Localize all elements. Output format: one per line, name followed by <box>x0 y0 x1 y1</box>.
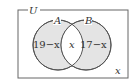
set-b-only-label: 17−x <box>80 39 107 50</box>
outside-label: x <box>115 65 121 76</box>
set-b-label: B <box>84 15 92 26</box>
intersection-label: x <box>69 39 75 50</box>
universe-label: U <box>29 5 38 16</box>
set-a-label: A <box>53 15 61 26</box>
venn-diagram: U A B 19−x x 17−x x <box>0 0 132 84</box>
set-a-only-label: 19−x <box>33 39 60 50</box>
